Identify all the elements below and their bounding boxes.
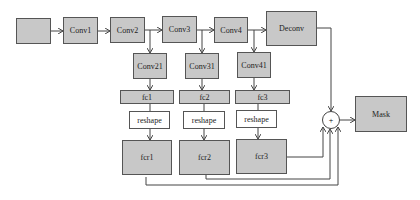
fc3-node: fc3 — [235, 90, 290, 104]
fc1-node: fc1 — [120, 90, 174, 104]
conv4-node: Conv4 — [214, 17, 248, 43]
mask-node: Mask — [355, 96, 407, 132]
fc2-node: fc2 — [179, 90, 230, 104]
reshape3-node: reshape — [236, 110, 277, 128]
conv21-node: Conv21 — [133, 53, 167, 79]
conv2-node: Conv2 — [110, 17, 145, 43]
input-node — [16, 18, 51, 44]
diagram-canvas: Conv1 Conv2 Conv3 Conv4 Deconv Conv21 Co… — [0, 0, 420, 200]
sum-node: + — [322, 111, 340, 129]
reshape2-node: reshape — [183, 111, 225, 129]
conv3-node: Conv3 — [162, 16, 197, 43]
deconv-node: Deconv — [266, 11, 317, 46]
conv41-node: Conv41 — [237, 52, 271, 78]
conv1-node: Conv1 — [63, 17, 98, 44]
conv31-node: Conv31 — [185, 53, 219, 79]
fcr1-node: fcr1 — [122, 140, 172, 175]
fcr3-node: fcr3 — [236, 139, 287, 174]
reshape1-node: reshape — [129, 111, 170, 129]
fcr2-node: fcr2 — [179, 140, 230, 175]
